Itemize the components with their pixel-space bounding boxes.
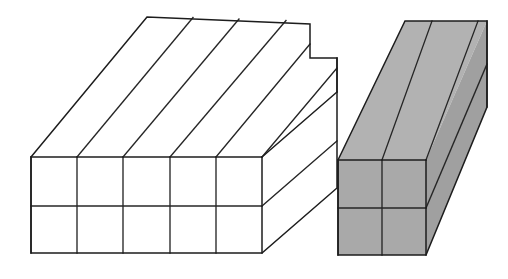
left-block [31,17,337,253]
figure-root [0,0,508,279]
block-diagram-svg [0,0,508,279]
left-block-front-face [31,157,262,253]
right-block [338,21,487,255]
